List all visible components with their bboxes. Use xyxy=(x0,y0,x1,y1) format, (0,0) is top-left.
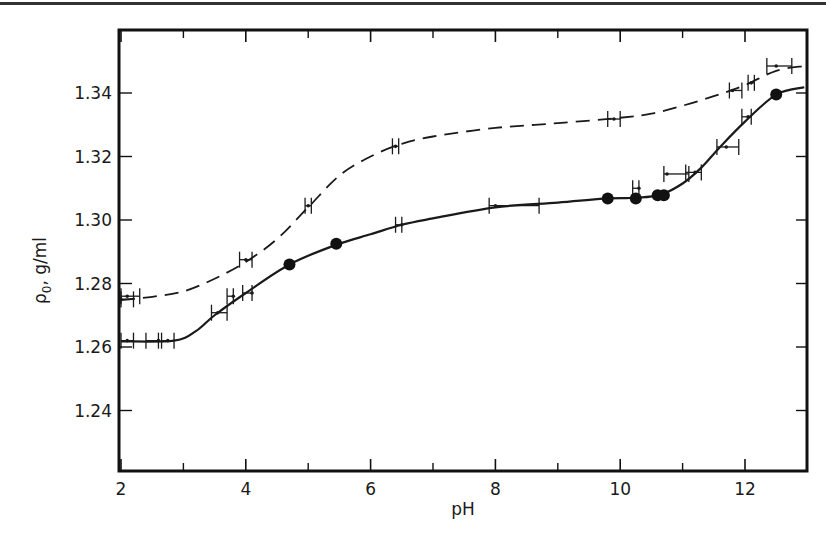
x-tick-label: 10 xyxy=(609,479,631,499)
error-bar-point xyxy=(243,285,254,301)
y-tick-label: 1.34 xyxy=(74,83,112,103)
filled-data-point xyxy=(283,258,295,270)
x-tick-label: 12 xyxy=(734,479,756,499)
y-tick-label: 1.24 xyxy=(74,401,112,421)
x-tick-label: 6 xyxy=(365,479,376,499)
error-bar-point xyxy=(119,291,133,307)
error-bar-point xyxy=(121,333,133,349)
error-bar-point xyxy=(717,139,739,155)
series-layer xyxy=(119,58,804,349)
error-bar-point xyxy=(748,75,754,91)
svg-text:ρ0, g/ml: ρ0, g/ml xyxy=(30,237,54,304)
chart: 246810121.241.261.281.301.321.34 pH ρ0, … xyxy=(0,0,826,539)
y-axis-title: ρ0, g/ml xyxy=(30,237,54,304)
solid-series xyxy=(121,87,804,348)
y-tick-label: 1.32 xyxy=(74,147,112,167)
filled-data-point xyxy=(770,89,782,101)
error-bar-point xyxy=(305,198,311,214)
y-axis-unit: , g/ml xyxy=(30,237,50,286)
dashed-curve xyxy=(121,66,804,300)
filled-data-point xyxy=(630,192,642,204)
error-bar-point xyxy=(396,217,404,233)
y-tick-label: 1.30 xyxy=(74,210,112,230)
error-bar-point xyxy=(227,288,235,304)
ticks-layer xyxy=(119,30,807,471)
x-axis-title: pH xyxy=(451,499,475,519)
labels-layer: 246810121.241.261.281.301.321.34 xyxy=(74,83,756,499)
filled-data-point xyxy=(330,238,342,250)
x-tick-label: 8 xyxy=(490,479,501,499)
error-bar-point xyxy=(767,58,792,74)
error-bar-point xyxy=(146,333,160,349)
error-bar-point xyxy=(121,288,140,304)
error-bar-point xyxy=(729,82,741,98)
error-bar-point xyxy=(608,111,620,127)
y-tick-label: 1.28 xyxy=(74,274,112,294)
plot-frame xyxy=(119,30,807,471)
error-bar-point xyxy=(240,252,252,268)
y-tick-label: 1.26 xyxy=(74,337,112,357)
dashed-series xyxy=(119,58,804,307)
y-axis-symbol: ρ xyxy=(30,293,50,304)
solid-curve xyxy=(121,87,804,341)
error-bar-point xyxy=(392,138,398,154)
filled-data-point xyxy=(658,189,670,201)
y-axis-subscript: 0 xyxy=(40,286,54,294)
error-bar-point xyxy=(162,333,174,349)
x-tick-label: 2 xyxy=(116,479,127,499)
error-bar-point xyxy=(686,164,702,180)
error-bar-point xyxy=(489,198,539,214)
x-tick-label: 4 xyxy=(240,479,251,499)
filled-data-point xyxy=(602,192,614,204)
